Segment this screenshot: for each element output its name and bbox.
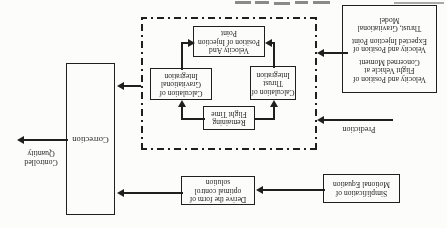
- derive-solution-box: Derive the form of optimal control solut…: [181, 176, 255, 205]
- dashed-edge-left: [315, 17, 317, 150]
- inputs-line5: Expected Injection Point: [352, 36, 427, 45]
- grav-line1: Calculation of: [159, 88, 202, 97]
- derive-line3: solution: [206, 178, 230, 187]
- conn-grav-injection-head: [188, 39, 195, 47]
- conn-remaining-grav-h: [182, 118, 205, 120]
- inputs-line3: Concerned Moment: [353, 57, 426, 66]
- dashed-edge-right: [141, 17, 143, 150]
- gravitational-integration-box: Calculation of Gravitational Integration: [150, 68, 212, 100]
- scan-artifact: [295, 2, 308, 5]
- inputs-line6: Thrust, Gravitational: [358, 24, 422, 33]
- prediction-label: Prediction: [325, 125, 393, 134]
- inputs-line7: Model: [358, 15, 422, 24]
- rotated-diagram-canvas: Simplification of Motional Equation Deri…: [0, 0, 447, 228]
- conn-grav-injection-v: [181, 42, 183, 70]
- arrow-inputs-to-module-head: [317, 49, 324, 57]
- correction-box: Correction: [66, 63, 115, 215]
- inputs-line4: Velocity and Position of: [352, 45, 427, 54]
- scanned-flowchart-page: Simplification of Motional Equation Deri…: [0, 0, 447, 228]
- arrow-inputs-to-module-shaft: [323, 52, 348, 54]
- simplification-box: Simplification of Motional Equation: [323, 174, 400, 203]
- injection-line3: Point: [221, 29, 237, 38]
- controlled-quantity-label: Controlled Quantity: [20, 148, 62, 166]
- injection-line2: Position of Injection: [198, 37, 260, 46]
- thrust-line2: Thrust: [263, 79, 283, 88]
- conn-remaining-grav-v: [181, 107, 183, 120]
- arrow-derive-to-correction-shaft: [124, 192, 183, 194]
- arrow-controlled-quantity-shaft: [24, 139, 68, 141]
- simplification-line2: Motional Equation: [333, 180, 390, 189]
- remaining-line2: Flight Time: [211, 110, 247, 119]
- controlled-quantity-line2: Quantity: [27, 149, 54, 158]
- inputs-group-vehicle: Velocity and Position of Flight Vehicle …: [353, 57, 426, 83]
- scan-artifact: [274, 2, 290, 5]
- conn-thrust-injection-v: [273, 42, 275, 68]
- dashed-edge-bottom: [141, 17, 317, 19]
- simplification-line1: Simplification of: [336, 189, 388, 198]
- conn-remaining-grav-head: [178, 100, 186, 107]
- conn-remaining-thrust-v: [273, 107, 275, 120]
- dashed-edge-top: [141, 148, 317, 150]
- grav-line2: Gravitational: [161, 80, 201, 89]
- injection-point-box: Velocity And Position of Injection Point: [193, 26, 265, 57]
- scan-artifact: [313, 2, 330, 5]
- grav-line3: Integration: [164, 71, 197, 80]
- scan-artifact: [255, 2, 269, 5]
- inputs-box: Velocity and Position of Flight Vehicle …: [342, 5, 437, 93]
- scan-artifact: [394, 3, 444, 5]
- conn-thrust-injection-head: [265, 39, 272, 47]
- thrust-line1: Calculation of: [251, 87, 294, 96]
- thrust-line3: Integration: [256, 70, 289, 79]
- injection-line1: Velocity And: [209, 46, 249, 55]
- conn-remaining-thrust-h: [255, 118, 274, 120]
- remaining-flight-time-box: Remaining Flight Time: [203, 106, 255, 130]
- inputs-group-injection: Velocity and Position of Expected Inject…: [352, 36, 427, 53]
- remaining-line1: Remaining: [212, 118, 245, 127]
- inputs-line1: Velocity and Position of: [353, 74, 426, 83]
- arrow-simplification-to-derive-shaft: [263, 189, 325, 191]
- arrow-simplification-to-derive-head: [256, 186, 263, 194]
- inputs-line2: Flight Vehicle at: [353, 66, 426, 75]
- thrust-integration-box: Calculation of Thrust Integration: [250, 66, 296, 100]
- controlled-quantity-line1: Controlled: [24, 158, 57, 167]
- inputs-group-model: Thrust, Gravitational Model: [358, 15, 422, 32]
- arrow-controlled-quantity-head: [17, 136, 24, 144]
- conn-remaining-thrust-head: [270, 100, 278, 107]
- correction-label: Correction: [72, 134, 108, 144]
- derive-line2: optimal control: [195, 186, 242, 195]
- derive-line1: Derive the form of: [190, 195, 247, 204]
- prediction-text: Prediction: [343, 125, 376, 134]
- arrow-prediction-shaft: [323, 119, 393, 121]
- arrow-module-to-correction-head: [117, 82, 124, 90]
- arrow-prediction-head: [317, 116, 324, 124]
- arrow-derive-to-correction-head: [117, 189, 124, 197]
- arrow-module-to-correction-shaft: [123, 85, 141, 87]
- scan-artifact: [235, 2, 251, 5]
